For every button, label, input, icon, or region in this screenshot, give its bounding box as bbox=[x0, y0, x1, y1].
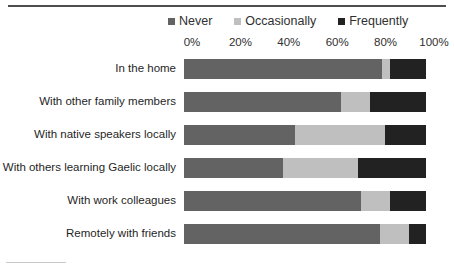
chart-row: Remotely with friends bbox=[0, 223, 454, 245]
x-axis-tick-label: 0% bbox=[184, 36, 201, 48]
bar-segment-never[interactable] bbox=[184, 59, 382, 79]
bar-segment-never[interactable] bbox=[184, 224, 380, 244]
bar-segment-never[interactable] bbox=[184, 191, 361, 211]
legend-entry-never[interactable]: Never bbox=[168, 15, 212, 28]
stacked-bar[interactable] bbox=[184, 92, 426, 112]
bar-segment-frequently[interactable] bbox=[390, 191, 426, 211]
plot-area: In the homeWith other family membersWith… bbox=[0, 58, 454, 258]
legend-swatch-icon bbox=[338, 18, 345, 25]
category-label: With other family members bbox=[0, 96, 184, 108]
legend-label: Frequently bbox=[349, 15, 408, 28]
legend-label: Never bbox=[179, 15, 212, 28]
chart-row: With native speakers locally bbox=[0, 124, 454, 146]
chart-row: With others learning Gaelic locally bbox=[0, 157, 454, 179]
legend-entry-frequently[interactable]: Frequently bbox=[338, 15, 408, 28]
category-label: With others learning Gaelic locally bbox=[0, 162, 184, 174]
bar-segment-frequently[interactable] bbox=[358, 158, 426, 178]
x-axis-tick-label: 60% bbox=[326, 36, 349, 48]
bar-segment-occasionally[interactable] bbox=[295, 125, 385, 145]
top-divider-rule bbox=[8, 5, 446, 7]
stacked-bar[interactable] bbox=[184, 59, 426, 79]
bar-segment-frequently[interactable] bbox=[390, 59, 426, 79]
bar-segment-occasionally[interactable] bbox=[341, 92, 370, 112]
chart-row: With work colleagues bbox=[0, 190, 454, 212]
category-label: Remotely with friends bbox=[0, 228, 184, 240]
bar-segment-frequently[interactable] bbox=[385, 125, 426, 145]
bar-segment-never[interactable] bbox=[184, 92, 341, 112]
category-label: With native speakers locally bbox=[0, 129, 184, 141]
bar-segment-never[interactable] bbox=[184, 125, 295, 145]
chart-legend: NeverOccasionallyFrequently bbox=[168, 12, 448, 30]
stacked-bar-chart: NeverOccasionallyFrequently 0%20%40%60%8… bbox=[0, 0, 454, 269]
bottom-divider-rule bbox=[6, 262, 66, 263]
bar-segment-never[interactable] bbox=[184, 158, 283, 178]
bar-segment-frequently[interactable] bbox=[370, 92, 426, 112]
x-axis-ticks: 0%20%40%60%80%100% bbox=[192, 36, 434, 52]
legend-swatch-icon bbox=[168, 18, 175, 25]
chart-row: With other family members bbox=[0, 91, 454, 113]
bar-segment-occasionally[interactable] bbox=[380, 224, 409, 244]
x-axis-tick-label: 20% bbox=[229, 36, 252, 48]
stacked-bar[interactable] bbox=[184, 125, 426, 145]
bar-segment-frequently[interactable] bbox=[409, 224, 426, 244]
category-label: In the home bbox=[0, 63, 184, 75]
x-axis-tick-label: 40% bbox=[277, 36, 300, 48]
stacked-bar[interactable] bbox=[184, 224, 426, 244]
bar-segment-occasionally[interactable] bbox=[361, 191, 390, 211]
stacked-bar[interactable] bbox=[184, 158, 426, 178]
x-axis-tick-label: 80% bbox=[374, 36, 397, 48]
legend-label: Occasionally bbox=[245, 15, 316, 28]
legend-entry-occasionally[interactable]: Occasionally bbox=[234, 15, 316, 28]
x-axis-tick-label: 100% bbox=[419, 36, 448, 48]
bar-segment-occasionally[interactable] bbox=[283, 158, 358, 178]
stacked-bar[interactable] bbox=[184, 191, 426, 211]
category-label: With work colleagues bbox=[0, 195, 184, 207]
chart-row: In the home bbox=[0, 58, 454, 80]
bar-segment-occasionally[interactable] bbox=[382, 59, 389, 79]
legend-swatch-icon bbox=[234, 18, 241, 25]
